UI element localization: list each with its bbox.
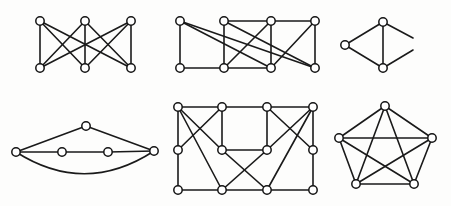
graph-edge xyxy=(339,138,356,184)
graph-edge xyxy=(267,107,313,190)
graph-vertex xyxy=(174,186,182,194)
graph-edge xyxy=(345,45,383,68)
graph-diagram-svg xyxy=(0,0,451,206)
graph-4-path-with-apex-and-arc xyxy=(12,122,158,174)
graph-vertex xyxy=(81,17,89,25)
graph-vertex xyxy=(335,134,343,142)
graph-vertex xyxy=(218,103,226,111)
graph-vertex xyxy=(263,186,271,194)
graph-edge xyxy=(385,106,432,138)
graph-2-eight-vertex-bipartite-style xyxy=(176,17,319,72)
graph-cropped-edge xyxy=(383,50,413,68)
graph-edge xyxy=(414,138,432,184)
graph-curved-edge xyxy=(16,151,154,174)
graph-vertex xyxy=(218,146,226,154)
graph-edge xyxy=(339,106,385,138)
graph-vertex xyxy=(267,17,275,25)
graph-vertex xyxy=(352,180,360,188)
graph-vertex xyxy=(36,64,44,72)
graph-vertex xyxy=(311,64,319,72)
figure-canvas xyxy=(0,0,451,206)
graph-edge xyxy=(356,106,385,184)
graph-vertex xyxy=(174,103,182,111)
graph-vertex xyxy=(267,64,275,72)
graph-vertex xyxy=(379,18,387,26)
graph-vertex xyxy=(36,17,44,25)
graph-vertex xyxy=(174,146,182,154)
graph-vertex xyxy=(311,17,319,25)
graph-vertex xyxy=(104,148,112,156)
graph-edge xyxy=(345,22,383,45)
graph-vertex xyxy=(309,103,317,111)
graph-vertex xyxy=(176,64,184,72)
graph-edge xyxy=(339,138,414,184)
graph-edge xyxy=(224,21,271,68)
graph-vertex xyxy=(428,134,436,142)
graph-vertex xyxy=(58,148,66,156)
graph-vertex xyxy=(81,64,89,72)
graph-5-ten-vertex-symmetric xyxy=(174,103,317,194)
graph-edge xyxy=(180,21,271,68)
graph-1-complete-bipartite-k33 xyxy=(36,17,135,72)
graph-vertex xyxy=(341,41,349,49)
graph-vertex xyxy=(220,64,228,72)
graph-vertex xyxy=(309,186,317,194)
graph-edge xyxy=(385,106,414,184)
graph-vertex xyxy=(309,146,317,154)
graph-vertex xyxy=(379,64,387,72)
graph-edge xyxy=(178,107,222,190)
graph-vertex xyxy=(127,64,135,72)
graph-vertex xyxy=(381,102,389,110)
graph-vertex xyxy=(410,180,418,188)
graph-3-triangle-with-cropped-edges xyxy=(341,18,413,72)
graph-vertex xyxy=(82,122,90,130)
graph-vertex xyxy=(12,148,20,156)
graph-vertex xyxy=(176,17,184,25)
graph-edge xyxy=(16,126,86,152)
graph-6-complete-graph-k5 xyxy=(335,102,436,188)
graph-vertex xyxy=(150,147,158,155)
graph-vertex xyxy=(220,17,228,25)
graph-edge xyxy=(86,126,154,151)
graph-edge xyxy=(356,138,432,184)
graph-vertex xyxy=(263,103,271,111)
graph-vertex xyxy=(218,186,226,194)
graph-vertex xyxy=(263,146,271,154)
graph-edge xyxy=(108,151,154,152)
graph-cropped-edge xyxy=(383,22,413,38)
graph-vertex xyxy=(127,17,135,25)
graph-edge xyxy=(224,21,315,68)
